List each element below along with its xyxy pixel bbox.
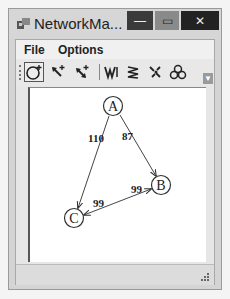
circle-plus-icon [25, 63, 43, 81]
app-icon [17, 18, 30, 30]
zigzag-m-icon [125, 63, 143, 81]
node-b[interactable]: B [152, 176, 171, 195]
edge-weight-a-b: 87 [122, 130, 134, 142]
minimize-button[interactable]: — [127, 11, 153, 30]
svg-text:A: A [108, 99, 119, 114]
layout-w-button[interactable] [102, 62, 122, 82]
maximize-icon: ▭ [155, 11, 179, 30]
cluster-button[interactable] [168, 62, 188, 82]
toolbar-grip[interactable] [19, 65, 23, 80]
client-area: File Options [15, 39, 215, 285]
edge-weight-a-c: 110 [88, 132, 104, 144]
resize-grip-icon[interactable] [200, 272, 210, 282]
svg-text:B: B [156, 178, 165, 193]
layout-m-button[interactable] [124, 62, 144, 82]
node-c[interactable]: C [65, 209, 84, 228]
edge-a-c[interactable] [78, 116, 109, 208]
graph-drawing: A B C 110 87 99 99 [30, 88, 206, 262]
add-bidirectional-edge-button[interactable] [72, 62, 92, 82]
svg-text:C: C [69, 211, 78, 226]
arrow-plus-icon [49, 63, 67, 81]
edge-weight-b-c: 99 [93, 197, 105, 209]
menu-file[interactable]: File [24, 43, 45, 57]
close-button[interactable]: ✕ [181, 11, 219, 30]
maximize-button[interactable]: ▭ [155, 11, 179, 30]
add-edge-button[interactable] [48, 62, 68, 82]
double-arrow-plus-icon [73, 63, 91, 81]
add-node-button[interactable] [24, 62, 44, 82]
app-window: NetworkMa... — ▭ ✕ File Options [8, 8, 222, 290]
minimize-icon: — [127, 11, 153, 30]
scatter-button[interactable] [146, 62, 166, 82]
toolbar-separator [99, 64, 100, 80]
window-title: NetworkMa... [34, 15, 122, 32]
cluster-icon [169, 63, 187, 81]
status-strip [16, 264, 214, 285]
menu-options[interactable]: Options [58, 43, 103, 57]
graph-canvas[interactable]: A B C 110 87 99 99 [28, 87, 206, 262]
scatter-icon [147, 63, 165, 81]
zigzag-w-icon [103, 63, 121, 81]
edge-a-b[interactable] [120, 115, 156, 176]
edge-weight-c-b: 99 [131, 183, 143, 195]
toolbar: ▼ [16, 59, 214, 86]
node-a[interactable]: A [104, 97, 123, 116]
close-icon: ✕ [181, 11, 219, 30]
menu-bar: File Options [16, 40, 214, 59]
title-bar[interactable]: NetworkMa... — ▭ ✕ [9, 9, 221, 39]
toolbar-overflow-button[interactable]: ▼ [203, 73, 213, 84]
